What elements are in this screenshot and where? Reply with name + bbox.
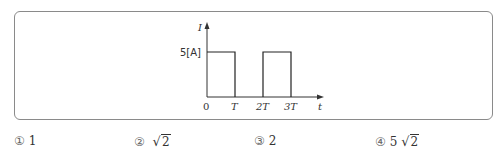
choice-marker: ① [14,134,25,148]
choice-4[interactable]: ④5 √2 [375,134,419,149]
tick-T: T [231,101,239,112]
tick-2T: 2T [255,101,270,112]
choice-marker: ③ [254,134,265,148]
y-axis [205,22,210,97]
choice-marker: ② [134,135,145,149]
tick-3T: 3T [284,101,298,112]
x-axis [207,95,324,100]
current-waveform-graph: I 5[A] 0 T 2T 3T t [0,0,504,125]
sqrt-expression: √2 [401,134,419,149]
choice-value: 2 [269,134,277,148]
choice-1[interactable]: ①1 [14,134,36,148]
level-label: 5[A] [180,47,201,58]
x-axis-label: t [318,101,323,112]
x-axis-arrow-icon [317,95,324,100]
pulse-waveform [207,52,291,97]
choice-marker: ④ [375,135,386,149]
y-axis-label: I [197,22,203,33]
answer-choices: ①1 ② √2 ③2 ④5 √2 [14,134,494,154]
choice-2[interactable]: ② √2 [134,134,171,149]
y-axis-arrow-icon [205,22,210,29]
choice-value: 1 [29,134,37,148]
tick-0: 0 [203,101,209,112]
choice-coef: 5 [390,135,398,149]
radical-sign-icon: √ [153,134,161,149]
sqrt-expression: √2 [153,134,171,149]
choice-3[interactable]: ③2 [254,134,276,148]
radical-sign-icon: √ [401,134,409,149]
